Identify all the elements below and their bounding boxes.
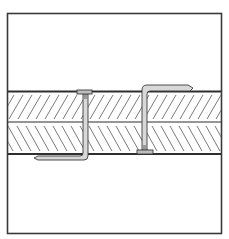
nail-clinch-cross-section-diagram [0, 0, 229, 239]
diagram-frame [8, 14, 222, 234]
right-nail-head [137, 150, 153, 154]
left-nail-head [77, 90, 92, 94]
